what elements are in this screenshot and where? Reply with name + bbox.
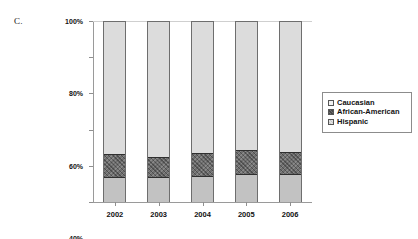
bar-segment-hispanic[interactable]: [236, 175, 257, 202]
x-axis-tick-label: 2006: [282, 210, 299, 219]
bar-segment-caucasian[interactable]: [104, 21, 125, 154]
legend-item[interactable]: African-American: [328, 108, 407, 116]
x-axis-tick: [115, 202, 116, 206]
bar-segment-african-american[interactable]: [236, 150, 257, 175]
x-axis-tick-label: 2005: [238, 210, 255, 219]
legend-item[interactable]: Hispanic: [328, 118, 407, 126]
x-axis-tick: [203, 202, 204, 206]
y-axis-tick: 100%: [89, 21, 93, 22]
bar-segment-african-american[interactable]: [104, 154, 125, 178]
x-axis-tick-label: 2002: [107, 210, 124, 219]
african-american-swatch: [328, 109, 334, 115]
stacked-bar[interactable]: [191, 21, 214, 202]
bar-segment-african-american[interactable]: [148, 157, 169, 179]
bar-segment-hispanic[interactable]: [280, 175, 301, 202]
bar-segment-african-american[interactable]: [280, 152, 301, 175]
y-axis-line: [93, 21, 94, 202]
hispanic-swatch: [328, 119, 334, 125]
y-axis-tick-label: 40%: [69, 235, 83, 239]
stacked-bar[interactable]: [103, 21, 126, 202]
chart-legend: CaucasianAfrican-AmericanHispanic: [322, 92, 412, 133]
x-axis-tick: [290, 202, 291, 206]
y-axis-tick: 20%: [89, 166, 93, 167]
y-axis-tick: 80%: [89, 57, 93, 58]
y-axis-tick-label: 60%: [69, 162, 83, 169]
y-axis-tick: 40%: [89, 130, 93, 131]
caucasian-swatch: [328, 100, 334, 106]
panel-label: C.: [14, 16, 23, 26]
x-axis-tick-label: 2003: [150, 210, 167, 219]
x-axis-tick: [159, 202, 160, 206]
stacked-bar[interactable]: [279, 21, 302, 202]
bar-segment-caucasian[interactable]: [236, 21, 257, 150]
bar-segment-caucasian[interactable]: [192, 21, 213, 153]
chart-plot-area: 0%20%40%60%80%100% 20022003200420052006: [93, 21, 312, 202]
bar-segment-caucasian[interactable]: [148, 21, 169, 157]
stacked-bar[interactable]: [147, 21, 170, 202]
legend-item-label: Caucasian: [337, 99, 375, 107]
legend-item[interactable]: Caucasian: [328, 99, 407, 107]
y-axis-tick: 60%: [89, 93, 93, 94]
legend-item-label: Hispanic: [337, 118, 368, 126]
stacked-bar[interactable]: [235, 21, 258, 202]
bar-segment-caucasian[interactable]: [280, 21, 301, 152]
bar-segment-hispanic[interactable]: [148, 178, 169, 202]
bar-segment-hispanic[interactable]: [192, 177, 213, 202]
x-axis-tick-label: 2004: [194, 210, 211, 219]
y-axis-tick-label: 100%: [65, 18, 83, 25]
y-axis-tick: 0%: [89, 202, 93, 203]
y-axis-tick-label: 80%: [69, 90, 83, 97]
legend-item-label: African-American: [337, 108, 400, 116]
x-axis-tick: [246, 202, 247, 206]
bar-segment-hispanic[interactable]: [104, 178, 125, 202]
bar-segment-african-american[interactable]: [192, 153, 213, 177]
